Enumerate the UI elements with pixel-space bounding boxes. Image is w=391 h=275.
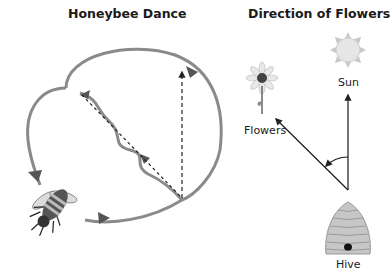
sun-icon	[330, 32, 366, 68]
hive-label: Hive	[336, 258, 361, 271]
sun-label: Sun	[338, 76, 359, 89]
beehive-icon	[326, 202, 371, 254]
flowers-label: Flowers	[244, 124, 286, 137]
waggle-dashed-line	[82, 95, 180, 196]
flowers-direction-arrow	[276, 119, 348, 190]
honeybee-icon	[18, 176, 81, 243]
honeybee-dance-diagram: Honeybee Dance Direction of Flowers	[0, 0, 391, 275]
flower-icon	[246, 62, 278, 114]
diagram-graphics	[0, 0, 391, 275]
angle-arc-arrow	[326, 157, 348, 166]
